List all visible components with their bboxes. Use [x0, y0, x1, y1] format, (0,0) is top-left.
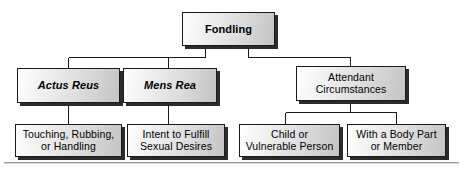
node-fondling[interactable]: Fondling [182, 12, 275, 46]
node-child-or-vulnerable-person[interactable]: Child or Vulnerable Person [239, 124, 340, 157]
node-attendant-circumstances[interactable]: Attendant Circumstances [296, 66, 406, 101]
fondling-elements-diagram: Fondling Actus Reus Mens Rea Attendant C… [0, 0, 463, 171]
node-intent-to-fulfill-sexual-desires[interactable]: Intent to Fulfill Sexual Desires [127, 124, 225, 157]
node-intent-to-fulfill-sexual-desires-label: Intent to Fulfill Sexual Desires [140, 129, 212, 153]
node-actus-reus[interactable]: Actus Reus [17, 68, 120, 103]
node-mens-rea-label: Mens Rea [144, 79, 196, 91]
node-touching-rubbing-handling[interactable]: Touching, Rubbing, or Handling [15, 124, 122, 157]
node-with-a-body-part-or-member[interactable]: With a Body Part or Member [347, 124, 446, 157]
node-attendant-circumstances-label: Attendant Circumstances [316, 72, 387, 96]
node-touching-rubbing-handling-label: Touching, Rubbing, or Handling [23, 129, 115, 153]
node-actus-reus-label: Actus Reus [38, 79, 100, 91]
node-fondling-label: Fondling [205, 23, 252, 35]
bottom-divider-shadow [4, 163, 459, 164]
node-with-a-body-part-or-member-label: With a Body Part or Member [356, 129, 436, 153]
node-mens-rea[interactable]: Mens Rea [123, 68, 217, 103]
node-child-or-vulnerable-person-label: Child or Vulnerable Person [246, 129, 334, 153]
